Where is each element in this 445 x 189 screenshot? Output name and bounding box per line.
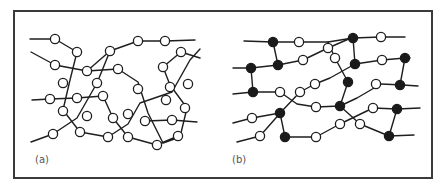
open-monomer-node	[275, 87, 284, 96]
panel-a-linear-chains: (a)	[30, 34, 200, 165]
crosslink-node	[392, 104, 401, 113]
open-monomer-node	[311, 102, 320, 111]
open-monomer-node	[98, 91, 107, 100]
crosslink-node	[348, 33, 357, 42]
open-monomer-node	[295, 87, 304, 96]
open-monomer-node	[255, 131, 264, 140]
crosslink-node	[335, 101, 344, 110]
crosslink-node	[400, 53, 409, 62]
open-monomer-node	[152, 140, 161, 149]
crosslink-node	[343, 77, 352, 86]
open-monomer-node	[75, 127, 84, 136]
open-monomer-node	[158, 62, 167, 71]
polymer-network-figure: (a) (b)	[0, 0, 445, 189]
crosslink-node	[246, 63, 255, 72]
open-monomer-node	[133, 36, 142, 45]
crosslink-node	[248, 87, 257, 96]
open-monomer-node	[167, 115, 176, 124]
open-monomer-node	[165, 82, 174, 91]
open-monomer-node	[58, 106, 67, 115]
open-monomer-node	[123, 109, 132, 118]
open-monomer-node	[335, 119, 344, 128]
open-monomer-node	[113, 64, 122, 73]
panel-b-label: (b)	[232, 154, 246, 165]
crosslink-node	[273, 60, 282, 69]
open-monomer-node	[376, 32, 385, 41]
crosslink-node	[350, 59, 359, 68]
panel-a-bonds	[30, 39, 200, 145]
open-monomer-node	[183, 79, 192, 88]
open-monomer-node	[355, 119, 364, 128]
crosslink-node	[268, 37, 277, 46]
crosslink-node	[275, 108, 284, 117]
open-monomer-node	[82, 66, 91, 75]
open-monomer-node	[311, 132, 320, 141]
open-monomer-node	[160, 36, 169, 45]
polymer-chain	[233, 84, 418, 107]
open-monomer-node	[50, 60, 59, 69]
open-monomer-node	[180, 103, 189, 112]
open-monomer-node	[103, 132, 112, 141]
open-monomer-node	[105, 46, 114, 55]
open-monomer-node	[377, 55, 386, 64]
open-monomer-node	[368, 103, 377, 112]
panel-a-label: (a)	[35, 154, 49, 165]
open-monomer-node	[323, 43, 332, 52]
crosslink-node	[384, 131, 393, 140]
open-monomer-node	[45, 94, 54, 103]
open-monomer-node	[92, 78, 101, 87]
crosslink-node	[280, 132, 289, 141]
open-monomer-node	[161, 95, 170, 104]
panel-b-monomer-nodes	[246, 32, 409, 141]
crosslink-node	[395, 80, 404, 89]
open-monomer-node	[310, 79, 319, 88]
open-monomer-node	[294, 37, 303, 46]
open-monomer-node	[176, 47, 185, 56]
open-monomer-node	[48, 129, 57, 138]
panel-b-crosslinked-network: (b)	[232, 32, 420, 165]
open-monomer-node	[330, 53, 339, 62]
open-monomer-node	[82, 111, 91, 120]
open-monomer-node	[72, 93, 81, 102]
open-monomer-node	[298, 55, 307, 64]
open-monomer-node	[58, 78, 67, 87]
open-monomer-node	[72, 47, 81, 56]
open-monomer-node	[247, 113, 256, 122]
open-monomer-node	[140, 116, 149, 125]
open-monomer-node	[173, 131, 182, 140]
open-monomer-node	[108, 113, 117, 122]
open-monomer-node	[371, 79, 380, 88]
open-monomer-node	[133, 84, 142, 93]
open-monomer-node	[50, 34, 59, 43]
open-monomer-node	[123, 132, 132, 141]
